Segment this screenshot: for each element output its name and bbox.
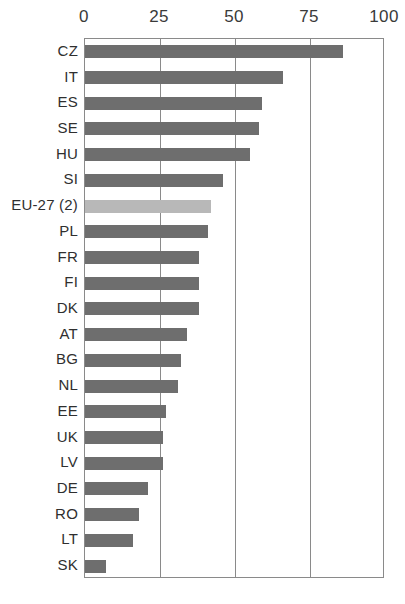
category-label-it: IT <box>0 68 78 86</box>
bar-eu-27-2 <box>85 200 211 213</box>
bar-bg <box>85 354 181 367</box>
category-label-eu-27-2: EU-27 (2) <box>0 196 78 214</box>
bar-fi <box>85 277 199 290</box>
bar-series <box>85 39 383 577</box>
bar-cz <box>85 45 343 58</box>
category-label-lt: LT <box>0 530 78 548</box>
bar-row <box>85 373 383 399</box>
category-label-uk: UK <box>0 428 78 446</box>
x-tick-label-0: 0 <box>79 6 89 28</box>
bar-row <box>85 39 383 65</box>
category-label-de: DE <box>0 479 78 497</box>
plot-area <box>84 38 384 578</box>
bar-chart: 0255075100 CZITESSEHUSIEU-27 (2)PLFRFIDK… <box>0 0 405 604</box>
bar-row <box>85 168 383 194</box>
bar-fr <box>85 251 199 264</box>
bar-uk <box>85 431 163 444</box>
category-label-cz: CZ <box>0 42 78 60</box>
bar-se <box>85 122 259 135</box>
bar-row <box>85 245 383 271</box>
x-axis-tick-labels: 0255075100 <box>0 6 405 32</box>
x-tick-label-75: 75 <box>299 6 319 28</box>
category-label-se: SE <box>0 119 78 137</box>
bar-ro <box>85 508 139 521</box>
bar-row <box>85 116 383 142</box>
category-label-fi: FI <box>0 273 78 291</box>
bar-row <box>85 296 383 322</box>
bar-row <box>85 348 383 374</box>
bar-ee <box>85 405 166 418</box>
bar-hu <box>85 148 250 161</box>
bar-it <box>85 71 283 84</box>
category-label-sk: SK <box>0 556 78 574</box>
bar-row <box>85 553 383 579</box>
bar-row <box>85 270 383 296</box>
bar-si <box>85 174 223 187</box>
bar-de <box>85 482 148 495</box>
bar-row <box>85 90 383 116</box>
bar-row <box>85 193 383 219</box>
bar-es <box>85 97 262 110</box>
bar-row <box>85 450 383 476</box>
category-label-hu: HU <box>0 145 78 163</box>
x-tick-label-50: 50 <box>224 6 244 28</box>
bar-row <box>85 476 383 502</box>
bar-row <box>85 65 383 91</box>
y-axis-category-labels: CZITESSEHUSIEU-27 (2)PLFRFIDKATBGNLEEUKL… <box>0 38 78 578</box>
bar-sk <box>85 560 106 573</box>
category-label-bg: BG <box>0 350 78 368</box>
category-label-ee: EE <box>0 402 78 420</box>
x-tick-label-100: 100 <box>369 6 398 28</box>
bar-row <box>85 142 383 168</box>
bar-row <box>85 425 383 451</box>
category-label-lv: LV <box>0 453 78 471</box>
bar-pl <box>85 225 208 238</box>
category-label-at: AT <box>0 325 78 343</box>
category-label-pl: PL <box>0 222 78 240</box>
category-label-dk: DK <box>0 299 78 317</box>
category-label-es: ES <box>0 93 78 111</box>
category-label-fr: FR <box>0 248 78 266</box>
bar-nl <box>85 380 178 393</box>
bar-row <box>85 322 383 348</box>
category-label-si: SI <box>0 170 78 188</box>
x-tick-label-25: 25 <box>149 6 169 28</box>
bar-dk <box>85 302 199 315</box>
category-label-nl: NL <box>0 376 78 394</box>
bar-row <box>85 502 383 528</box>
bar-row <box>85 528 383 554</box>
bar-lt <box>85 534 133 547</box>
bar-lv <box>85 457 163 470</box>
bar-row <box>85 399 383 425</box>
bar-row <box>85 219 383 245</box>
bar-at <box>85 328 187 341</box>
category-label-ro: RO <box>0 505 78 523</box>
